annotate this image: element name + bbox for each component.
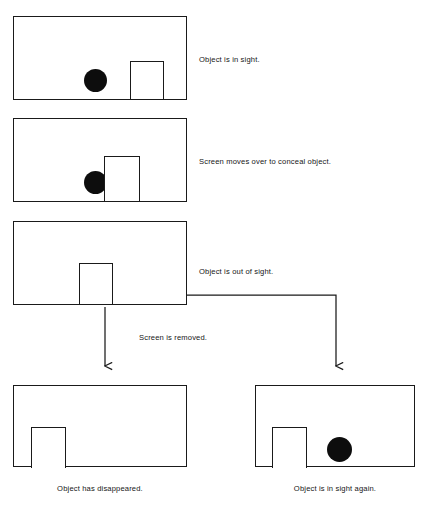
panel-1-caption: Object is in sight. (199, 55, 260, 65)
panel-3-screen (79, 263, 113, 304)
panel-4-caption: Object has disappeared. (13, 484, 187, 494)
transition-label: Screen is removed. (139, 333, 207, 343)
panel-4-screen (31, 427, 66, 468)
panel-1-screen (130, 61, 164, 99)
panel-5-caption: Object is in sight again. (255, 484, 415, 494)
arrow-right (187, 295, 336, 366)
diagram-canvas: Object is in sight. Screen moves over to… (0, 0, 428, 508)
panel-2-screen (104, 156, 140, 201)
panel-2-caption: Screen moves over to conceal object. (199, 157, 331, 167)
panel-1-object (84, 69, 107, 92)
panel-3-caption: Object is out of sight. (199, 267, 273, 277)
panel-5-screen (272, 427, 307, 468)
panel-5-object (327, 437, 352, 462)
